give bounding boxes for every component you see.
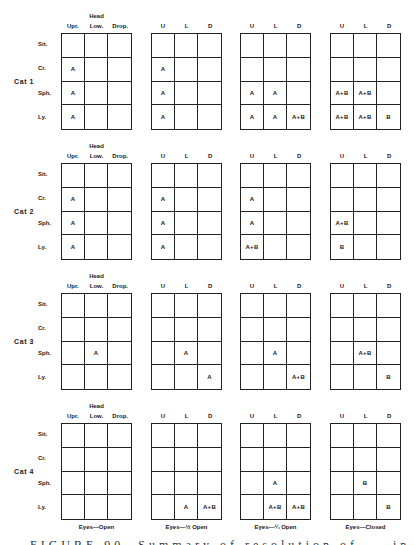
column-header: L (175, 283, 199, 289)
grid-cell (62, 34, 85, 58)
result-grid (61, 423, 132, 520)
grid-cell: A (85, 342, 108, 366)
grid-cell: A+B (287, 105, 310, 129)
grid-cell (85, 294, 108, 318)
category-block-3: Cat 3Sit.Cr.Sph.Ly.HeadUpr.Low.Drop.AULD… (0, 260, 415, 390)
grid-cell (175, 294, 198, 318)
grid-cell (198, 448, 221, 472)
grid-cell (175, 212, 198, 236)
grid-cell (175, 82, 198, 106)
grid-cell (175, 164, 198, 188)
row-label: Cr. (38, 195, 46, 201)
column-header: D (198, 153, 222, 159)
grid-cell (85, 318, 108, 342)
row-label: Sph. (38, 480, 51, 486)
grid-cell (152, 448, 175, 472)
grid-cell (287, 318, 310, 342)
row-label: Sit. (38, 301, 47, 307)
result-grid: AAAAA+B (240, 33, 311, 130)
grid-cell (198, 235, 221, 259)
grid-cell (85, 235, 108, 259)
grid-cell (62, 365, 85, 389)
grid-cell (108, 164, 131, 188)
row-label: Sit. (38, 171, 47, 177)
category-label: Cat 1 (14, 78, 34, 85)
head-group-label: Head (82, 273, 112, 279)
grid-cell (108, 424, 131, 448)
grid-cell (354, 34, 377, 58)
grid-cell: A (152, 235, 175, 259)
result-grid: AAA (61, 163, 132, 260)
grid-cell (108, 105, 131, 129)
result-grid: AA (151, 293, 222, 390)
grid-cell (287, 294, 310, 318)
head-group-label: Head (82, 403, 112, 409)
grid-cell (377, 188, 400, 212)
grid-cell (152, 342, 175, 366)
grid-cell (331, 318, 354, 342)
grid-cell (354, 294, 377, 318)
result-grid: A+BA+BA+BA+BB (330, 33, 401, 130)
grid-cell (108, 342, 131, 366)
grid-cell (108, 294, 131, 318)
column-header: U (151, 283, 175, 289)
result-grid: BB (330, 423, 401, 520)
row-label: Sph. (38, 220, 51, 226)
grid-cell: A+B (241, 235, 264, 259)
column-header: L (175, 413, 199, 419)
grid-cell (175, 318, 198, 342)
head-group-label: Head (82, 143, 112, 149)
grid-cell: A (264, 82, 287, 106)
grid-cell (85, 472, 108, 496)
grid-cell (331, 472, 354, 496)
grid-cell (62, 164, 85, 188)
row-label: Ly. (38, 374, 46, 380)
grid-cell (175, 472, 198, 496)
grid-cell (175, 188, 198, 212)
grid-cell (62, 424, 85, 448)
grid-cell (198, 164, 221, 188)
grid-cell (85, 164, 108, 188)
column-header: L (175, 153, 199, 159)
grid-cell (264, 58, 287, 82)
row-label: Cr. (38, 65, 46, 71)
grid-cell: A (175, 495, 198, 519)
row-label: Ly. (38, 244, 46, 250)
grid-cell (85, 365, 108, 389)
grid-cell (287, 58, 310, 82)
grid-cell (241, 342, 264, 366)
grid-cell (241, 294, 264, 318)
grid-cell (264, 424, 287, 448)
eye-condition-label: Eyes—½ Open (147, 524, 227, 530)
grid-cell (175, 448, 198, 472)
grid-cell (108, 495, 131, 519)
grid-cell (175, 235, 198, 259)
grid-cell (108, 365, 131, 389)
grid-cell (241, 448, 264, 472)
result-grid: AA+B (151, 423, 222, 520)
row-label: Sph. (38, 350, 51, 356)
grid-cell: A (241, 105, 264, 129)
grid-cell: B (377, 495, 400, 519)
grid-cell (198, 82, 221, 106)
grid-cell (354, 188, 377, 212)
grid-cell (377, 448, 400, 472)
grid-cell (241, 365, 264, 389)
grid-cell (264, 448, 287, 472)
grid-cell (287, 188, 310, 212)
grid-cell (241, 424, 264, 448)
grid-cell: A (241, 188, 264, 212)
grid-cell (377, 235, 400, 259)
column-header: L (354, 283, 378, 289)
column-header: D (198, 283, 222, 289)
grid-cell (377, 318, 400, 342)
grid-cell (85, 448, 108, 472)
grid-cell (377, 424, 400, 448)
row-label: Sit. (38, 431, 47, 437)
grid-cell (377, 212, 400, 236)
column-header: Low. (85, 413, 109, 419)
grid-cell (198, 212, 221, 236)
figure-caption-clipped: FIGURE 90. Summary of resolution of ... … (30, 538, 415, 545)
column-header: U (330, 283, 354, 289)
eye-condition-label: Eyes—Open (57, 524, 137, 530)
